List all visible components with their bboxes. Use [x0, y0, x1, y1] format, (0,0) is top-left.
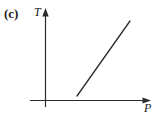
figure-panel-c: (c) T P — [0, 0, 163, 117]
plot-canvas — [0, 0, 163, 117]
y-axis-arrowhead — [42, 8, 48, 17]
data-line-t-vs-p — [77, 21, 130, 96]
y-axis-label: T — [34, 6, 41, 18]
x-axis-label: P — [144, 102, 151, 114]
